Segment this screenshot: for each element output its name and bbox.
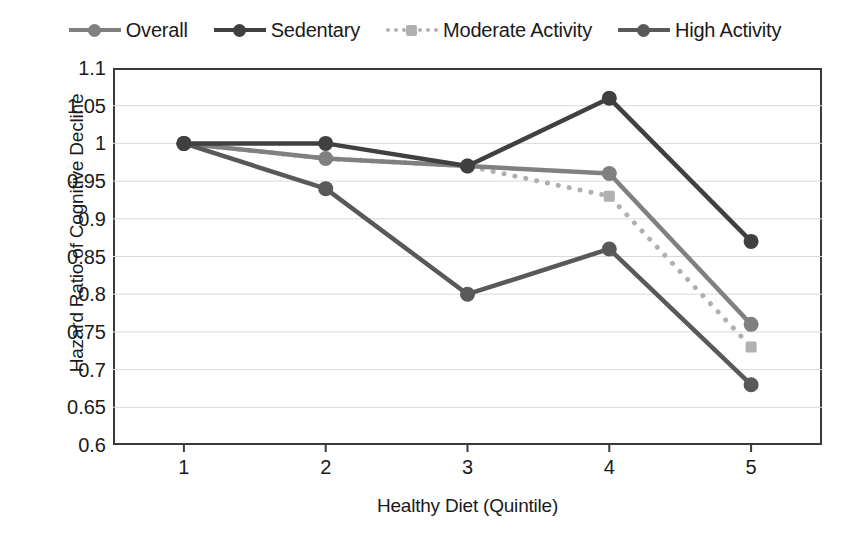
x-axis-tick-label: 3 xyxy=(448,457,488,477)
x-axis-tick-labels: 12345 xyxy=(0,0,850,535)
hazard-ratio-line-chart: OverallSedentaryModerate ActivityHigh Ac… xyxy=(0,0,850,535)
x-axis-title: Healthy Diet (Quintile) xyxy=(113,495,822,517)
x-axis-tick-label: 5 xyxy=(731,457,771,477)
x-axis-tick-label: 1 xyxy=(164,457,204,477)
x-axis-tick-label: 2 xyxy=(306,457,346,477)
x-axis-tick-label: 4 xyxy=(589,457,629,477)
